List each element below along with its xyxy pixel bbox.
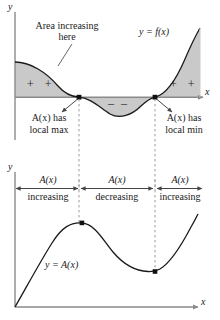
minus-signs-middle: – – [108, 96, 129, 111]
figure-canvas [0, 0, 220, 320]
local-max-leader [62, 99, 78, 112]
area-increasing-note-line2: here [24, 31, 110, 42]
top-y-axis-label: y [8, 1, 12, 12]
interval-3-title: A(x) [149, 174, 211, 185]
A-of-x-label: y = A(x) [45, 259, 78, 270]
local-max-note-line2: local max [17, 124, 81, 135]
interval-2-title: A(x) [86, 174, 148, 185]
interval-1-title: A(x) [17, 174, 79, 185]
bottom-local-max-marker [80, 221, 85, 226]
bottom-local-min-marker [153, 269, 158, 274]
local-min-leader [156, 99, 172, 112]
area-increasing-note-line1: Area increasing [24, 20, 110, 31]
plus-signs-left: + + [27, 77, 56, 92]
figure-container: y x Area increasing here y = f(x) + + – … [0, 0, 220, 320]
A-of-x-curve [15, 214, 198, 307]
local-max-note-line1: A(x) has [17, 112, 81, 123]
interval-1-state: increasing [13, 191, 83, 202]
area-annotation-leader [58, 44, 72, 66]
local-min-note-line1: A(x) has [152, 112, 216, 123]
interval-3-state: increasing [145, 191, 215, 202]
local-min-note-line2: local min [152, 124, 216, 135]
bottom-x-axis-label: x [201, 296, 205, 307]
interval-2-state: decreasing [82, 191, 152, 202]
bottom-y-axis-label: y [8, 161, 12, 172]
plus-signs-right: + + [170, 77, 199, 92]
f-of-x-label: y = f(x) [139, 26, 169, 37]
top-x-axis-label: x [205, 86, 209, 97]
